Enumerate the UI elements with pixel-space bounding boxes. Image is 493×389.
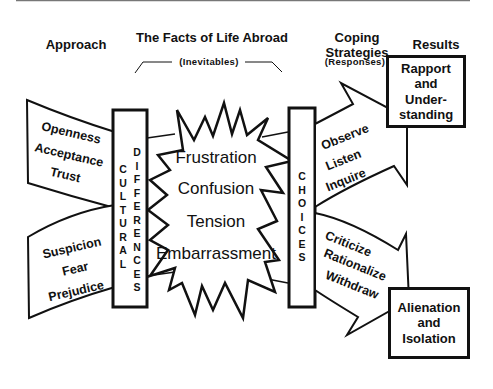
result-text: Alienation bbox=[398, 300, 461, 316]
bar-letter: C bbox=[117, 163, 129, 177]
bar-letter: U bbox=[117, 217, 129, 231]
connector bbox=[147, 134, 175, 138]
bar-letter: R bbox=[117, 231, 129, 245]
fact-tension: Tension bbox=[141, 212, 291, 232]
result-text: Isolation bbox=[398, 331, 461, 347]
bar-letter: L bbox=[117, 190, 129, 204]
result-text: and bbox=[398, 315, 461, 331]
header-coping-line1: Coping bbox=[312, 30, 402, 45]
inevitables-bracket-right bbox=[245, 62, 282, 72]
result-text: Rapport bbox=[399, 61, 453, 77]
connector bbox=[262, 132, 288, 137]
header-approach: Approach bbox=[36, 37, 116, 52]
bar-letter: S bbox=[131, 281, 143, 295]
subheader-inevitables: (Inevitables) bbox=[170, 56, 248, 67]
choices-label: CHOICES bbox=[296, 170, 308, 265]
result-text: standing bbox=[399, 107, 453, 123]
bar-letter: A bbox=[117, 244, 129, 258]
fact-embarrassment: Embarrassment bbox=[141, 244, 291, 264]
result-alienation-box: Alienation and Isolation bbox=[388, 287, 470, 359]
bar-letter: S bbox=[296, 251, 308, 265]
bar-letter: U bbox=[117, 177, 129, 191]
diagram-canvas: Approach The Facts of Life Abroad Coping… bbox=[0, 0, 493, 389]
bar-letter: L bbox=[117, 258, 129, 272]
bar-letter: C bbox=[296, 170, 308, 184]
result-rapport-box: Rapport and Under- standing bbox=[386, 55, 466, 128]
fact-confusion: Confusion bbox=[141, 179, 291, 199]
bar-letter: O bbox=[296, 197, 308, 211]
cultural-label: CULTURAL bbox=[117, 163, 129, 271]
bar-letter: E bbox=[296, 238, 308, 252]
result-text: and bbox=[399, 76, 453, 92]
bar-letter: T bbox=[117, 204, 129, 218]
fact-frustration: Frustration bbox=[141, 148, 291, 168]
bar-letter: E bbox=[131, 268, 143, 282]
bar-letter: H bbox=[296, 184, 308, 198]
result-text: Under- bbox=[399, 92, 453, 108]
bar-letter: C bbox=[296, 224, 308, 238]
inevitables-bracket-left bbox=[135, 62, 172, 73]
header-facts: The Facts of Life Abroad bbox=[122, 30, 302, 45]
header-results: Results bbox=[396, 37, 476, 52]
bar-letter: I bbox=[296, 211, 308, 225]
